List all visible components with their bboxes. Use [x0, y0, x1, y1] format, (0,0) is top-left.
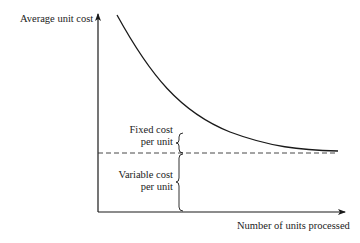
- variable-cost-label-line1: Variable cost: [118, 169, 173, 180]
- x-axis-label: Number of units processed: [237, 220, 351, 231]
- fixed-cost-brace: [176, 133, 183, 153]
- y-axis-label: Average unit cost: [20, 13, 93, 24]
- fixed-cost-label-line2: per unit: [141, 136, 173, 147]
- fixed-cost-label-line1: Fixed cost: [130, 124, 174, 135]
- variable-cost-brace: [176, 154, 183, 211]
- variable-cost-label-line2: per unit: [141, 181, 173, 192]
- cost-chart: Average unit cost Number of units proces…: [0, 0, 360, 243]
